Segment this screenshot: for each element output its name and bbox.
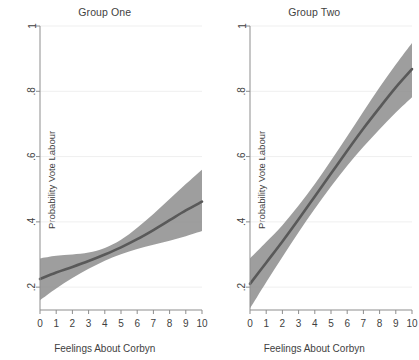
x-axis-tick-label: 6 <box>344 318 350 329</box>
x-axis-tick-label: 1 <box>53 318 59 329</box>
x-axis-tick-label: 4 <box>312 318 318 329</box>
x-axis-tick-label: 0 <box>247 318 253 329</box>
x-axis-tick-label: 8 <box>167 318 173 329</box>
panel-group-one: Group One Probability Vote Labour 1.8.6.… <box>0 0 210 360</box>
x-axis-tick-label: 6 <box>134 318 140 329</box>
x-axis-tick-label: 10 <box>406 318 418 329</box>
x-axis-tick-label: 9 <box>393 318 399 329</box>
panel-group-two: Group Two Probability Vote Labour 1.8.6.… <box>210 0 419 360</box>
x-axis-tick-label: 10 <box>196 318 208 329</box>
x-axis-tick-label: 1 <box>263 318 269 329</box>
y-axis-tick-label: .4 <box>236 217 247 226</box>
x-axis-tick-label: 2 <box>70 318 76 329</box>
x-axis-tick-label: 5 <box>118 318 124 329</box>
x-axis-tick-label: 3 <box>86 318 92 329</box>
plot-area-group-one: 1.8.6.4.2012345678910 <box>0 0 210 360</box>
y-axis-tick-label: .6 <box>27 152 38 161</box>
y-axis-tick-label: .2 <box>236 283 247 292</box>
x-axis-tick-label: 7 <box>151 318 157 329</box>
chart-figure: Group One Probability Vote Labour 1.8.6.… <box>0 0 419 360</box>
x-axis-tick-label: 2 <box>279 318 285 329</box>
x-axis-label: Feelings About Corbyn <box>210 343 419 354</box>
x-axis-tick-label: 3 <box>295 318 301 329</box>
x-axis-tick-label: 7 <box>360 318 366 329</box>
y-axis-tick-label: 1 <box>27 23 38 29</box>
x-axis-tick-label: 8 <box>376 318 382 329</box>
x-axis-tick-label: 4 <box>102 318 108 329</box>
y-axis-tick-label: .6 <box>236 152 247 161</box>
x-axis-tick-label: 0 <box>37 318 43 329</box>
x-axis-tick-label: 9 <box>183 318 189 329</box>
y-axis-tick-label: .8 <box>27 87 38 96</box>
y-axis-tick-label: 1 <box>236 23 247 29</box>
x-axis-label: Feelings About Corbyn <box>0 343 210 354</box>
plot-area-group-two: 1.8.6.4.2012345678910 <box>210 0 419 360</box>
y-axis-tick-label: .8 <box>236 87 247 96</box>
x-axis-tick-label: 5 <box>328 318 334 329</box>
y-axis-tick-label: .2 <box>27 283 38 292</box>
confidence-band <box>40 170 202 301</box>
y-axis-tick-label: .4 <box>27 217 38 226</box>
